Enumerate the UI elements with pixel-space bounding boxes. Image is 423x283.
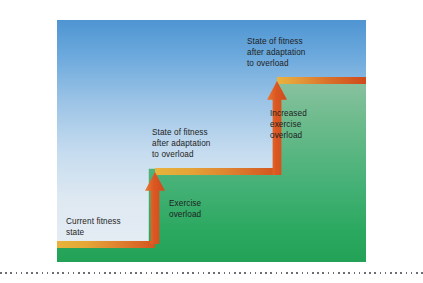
label-exercise-overload: Exercise overload (169, 198, 201, 220)
label-increased-exercise-overload: Increased exercise overload (270, 108, 307, 142)
plateau-band-current-fitness (57, 241, 155, 248)
plateau-band-second-adaptation (277, 77, 366, 84)
label-state-of-fitness-after-adaptation-top: State of fitness after adaptation to ove… (247, 36, 306, 70)
dotted-divider-rule (0, 272, 423, 274)
label-state-of-fitness-after-adaptation-middle: State of fitness after adaptation to ove… (152, 127, 211, 161)
progressive-overload-figure: Current fitness state Exercise overload … (57, 20, 366, 262)
plateau-band-first-adaptation (155, 168, 277, 175)
label-current-fitness-state: Current fitness state (66, 216, 121, 238)
